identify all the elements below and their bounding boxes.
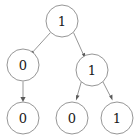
edge-left-child xyxy=(20,82,25,103)
edge-right-left xyxy=(76,81,82,101)
tree-node-left[interactable]: 0 xyxy=(7,49,39,81)
tree-node-right-left[interactable]: 0 xyxy=(56,102,88,134)
tree-node-right-right[interactable]: 1 xyxy=(101,102,133,134)
node-label-root: 1 xyxy=(58,14,66,29)
node-label-left-child: 0 xyxy=(19,111,27,126)
binary-tree-diagram: 1 0 1 0 0 1 xyxy=(0,0,137,137)
node-label-right: 1 xyxy=(88,63,96,78)
tree-canvas: 1 0 1 0 0 1 xyxy=(0,0,137,137)
tree-node-right[interactable]: 1 xyxy=(76,54,108,86)
node-label-right-left: 0 xyxy=(68,111,76,126)
edge-left-child-arrowhead xyxy=(20,97,25,102)
edge-right-right xyxy=(103,81,113,101)
tree-node-left-child[interactable]: 0 xyxy=(7,102,39,134)
edge-root-right xyxy=(74,33,86,59)
tree-node-root[interactable]: 1 xyxy=(46,5,78,37)
node-label-left: 0 xyxy=(19,58,27,73)
edge-right-left-arrowhead xyxy=(76,95,80,101)
edge-root-right-line xyxy=(74,33,85,58)
nodes-group: 1 0 1 0 0 1 xyxy=(7,5,133,134)
node-label-right-right: 1 xyxy=(113,111,121,126)
edge-root-left-line xyxy=(31,33,51,55)
